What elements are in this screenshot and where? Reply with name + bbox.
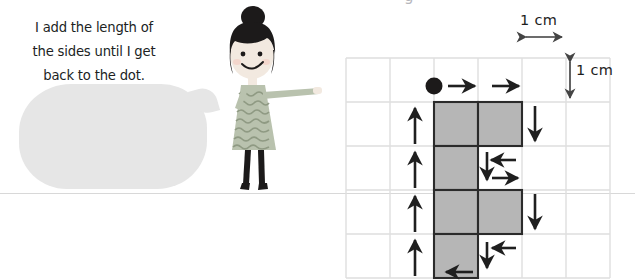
start-dot [426,78,443,95]
leg-right [258,150,265,184]
hand-icon [313,87,322,94]
speech-bubble [19,84,207,189]
shaded-shape [434,102,522,278]
leg-left [243,150,251,184]
shape-cell [478,190,522,234]
girl-svg [215,4,327,196]
pointing-arm [263,88,319,99]
grid-svg [336,0,635,280]
shape-cell [478,102,522,146]
speech-line-1: I add the length of [0,16,188,40]
perimeter-grid-diagram: 1 cm 1 cm [336,0,635,280]
speech-bubble-text: I add the length of the sides until I ge… [0,16,188,88]
speech-line-3: back to the dot. [0,64,188,88]
shape-cell [434,190,478,234]
page-canvas: g I add the length of the sides until I … [0,0,635,280]
eye-right-icon [258,52,263,57]
shape-cell [434,146,478,190]
vertical-scale-label: 1 cm [576,62,613,78]
girl-illustration [215,4,327,196]
speech-line-2: the sides until I get [0,40,188,64]
horizontal-scale-label: 1 cm [520,12,557,28]
eye-left-icon [241,52,246,57]
shape-cell [434,102,478,146]
